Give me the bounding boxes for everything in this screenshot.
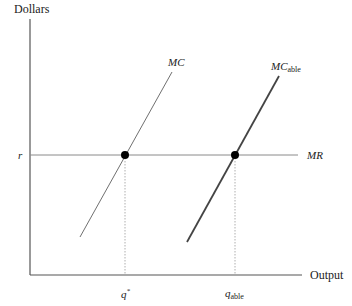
mc-able-label-sub: able	[288, 65, 301, 74]
equilibrium-dot-q-able	[231, 151, 239, 159]
mc-able-line	[187, 76, 279, 242]
q-star-sup: *	[127, 287, 131, 295]
mr-label: MR	[307, 150, 323, 161]
x-axis-label: Output	[310, 269, 343, 281]
y-axis-label: Dollars	[14, 3, 49, 15]
q-star-label: q*	[121, 288, 130, 300]
mc-able-label-main: MC	[271, 60, 288, 72]
price-label: r	[18, 150, 22, 161]
q-able-sub: able	[231, 292, 244, 301]
mc-able-label: MCable	[271, 61, 301, 74]
mc-label: MC	[168, 57, 185, 68]
diagram-canvas	[0, 0, 352, 306]
q-able-label: qable	[225, 288, 244, 301]
equilibrium-dot-q-star	[121, 151, 129, 159]
